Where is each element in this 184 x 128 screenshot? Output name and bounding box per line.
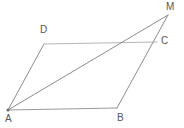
geometry-canvas (0, 0, 184, 128)
vertex-label-M: M (166, 2, 174, 12)
figure-vertices (6, 108, 9, 111)
vertex-point-A (6, 108, 9, 111)
vertex-label-B: B (117, 113, 124, 123)
geometry-figure: A B C D M (0, 0, 184, 128)
vertex-label-D: D (40, 25, 47, 35)
vertex-label-C: C (161, 36, 168, 46)
vertex-label-A: A (5, 114, 12, 124)
